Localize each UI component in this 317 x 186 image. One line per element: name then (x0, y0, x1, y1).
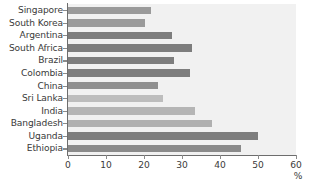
bar-row: China (0, 80, 317, 93)
bar-row: India (0, 105, 317, 118)
category-label: China (0, 80, 63, 93)
x-axis-tick-label: 20 (129, 160, 159, 170)
x-axis-tick (220, 155, 221, 159)
bar (68, 132, 258, 139)
bar (68, 145, 241, 152)
bar-row: Singapore (0, 4, 317, 17)
category-label: South Korea (0, 17, 63, 30)
x-axis-tick (258, 155, 259, 159)
category-label: Argentina (0, 29, 63, 42)
category-label: Brazil (0, 54, 63, 67)
bar-row: Sri Lanka (0, 92, 317, 105)
bar (68, 7, 151, 14)
bar-row: Colombia (0, 67, 317, 80)
x-axis-tick-label: 10 (91, 160, 121, 170)
x-axis-tick-label: 0 (53, 160, 83, 170)
bar-row: Argentina (0, 29, 317, 42)
bar-chart: SingaporeSouth KoreaArgentinaSouth Afric… (0, 0, 317, 186)
category-label: Bangladesh (0, 117, 63, 130)
category-label: Colombia (0, 67, 63, 80)
category-label: India (0, 105, 63, 118)
x-axis-tick (68, 155, 69, 159)
category-label: Ethiopia (0, 142, 63, 155)
x-axis-tick-label: 30 (167, 160, 197, 170)
bar (68, 107, 195, 114)
bar (68, 32, 172, 39)
x-axis-tick-label: 40 (205, 160, 235, 170)
x-axis-tick (106, 155, 107, 159)
bar (68, 95, 163, 102)
bar (68, 69, 190, 76)
bar (68, 82, 158, 89)
bar-row: Uganda (0, 130, 317, 143)
bar-row: Ethiopia (0, 142, 317, 155)
bar (68, 19, 145, 26)
bar-row: Brazil (0, 54, 317, 67)
x-axis-tick (296, 155, 297, 159)
x-axis-unit-label: % (283, 171, 313, 181)
bar (68, 120, 212, 127)
bar (68, 57, 174, 64)
category-label: Sri Lanka (0, 92, 63, 105)
category-label: South Africa (0, 42, 63, 55)
x-axis-tick-label: 50 (243, 160, 273, 170)
category-label: Uganda (0, 130, 63, 143)
bar-row: Bangladesh (0, 117, 317, 130)
bar-row: South Africa (0, 42, 317, 55)
x-axis-tick (182, 155, 183, 159)
bar-row: South Korea (0, 17, 317, 30)
y-axis-line (67, 3, 68, 156)
x-axis-tick (144, 155, 145, 159)
category-label: Singapore (0, 4, 63, 17)
x-axis-tick-label: 60 (281, 160, 311, 170)
bar (68, 44, 192, 51)
